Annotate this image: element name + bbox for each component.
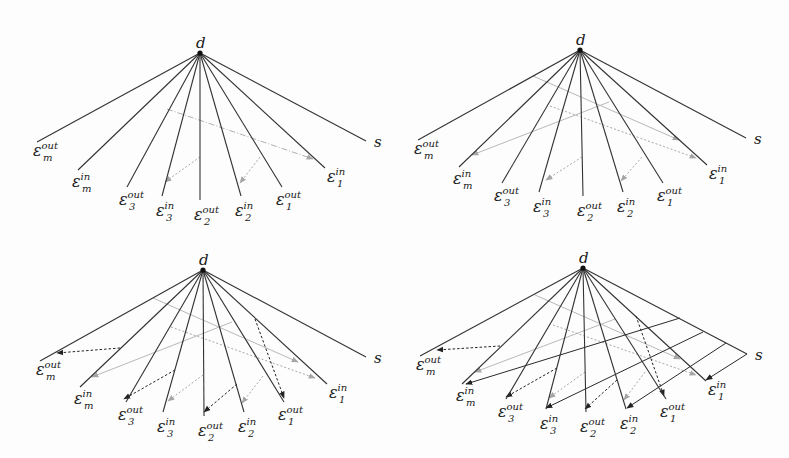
leaf-subscript: m [43, 152, 52, 163]
arc-black-dashed [437, 346, 500, 350]
leaf-subscript: m [84, 400, 93, 411]
leaf-subscript: m [424, 150, 433, 161]
arc-grey-dotted [550, 106, 696, 158]
leaf-subscript: m [463, 180, 472, 191]
center-label: d [199, 251, 209, 269]
star-edge [546, 268, 583, 409]
center-label: d [579, 249, 589, 267]
star-edge [163, 270, 203, 412]
star-edge [502, 50, 580, 183]
leaf-subscript: 2 [629, 425, 636, 436]
star-edge [203, 270, 284, 402]
arc-grey-dotted [165, 157, 200, 182]
star-edge [580, 50, 583, 196]
leaf-subscript: 1 [288, 416, 294, 427]
leaf-subscript: 2 [626, 208, 633, 219]
figure: dεoutmεinmεout3εin3εout2εin2εout1εin1sdε… [0, 0, 789, 458]
star-edge [459, 50, 580, 167]
arc-grey-dotted [242, 376, 263, 403]
panel-top-left: dεoutmεinmεout3εin3εout2εin2εout1εin1s [33, 34, 382, 227]
arc-set [57, 298, 315, 412]
leaf-subscript: 2 [586, 212, 593, 223]
star-edge [583, 268, 626, 409]
leaf-subscript: 2 [589, 428, 596, 439]
leaf-subscript: 2 [244, 212, 251, 223]
leaf-subscript: 1 [719, 175, 725, 186]
arc-grey-dashdot [167, 109, 313, 159]
leaf-subscript: 2 [203, 216, 210, 227]
leaf-subscript: 3 [128, 416, 134, 427]
arc-grey-dotted [240, 157, 260, 183]
star-edge [200, 53, 325, 168]
diagram-canvas: dεoutmεinmεout3εin3εout2εin2εout1εin1sdε… [0, 0, 789, 458]
leaf-subscript: 3 [543, 208, 549, 219]
leaf-label-s: s [374, 133, 382, 151]
arc-set [165, 109, 313, 183]
arc-set [437, 295, 747, 409]
leaf-label-s: s [755, 346, 763, 364]
arc-grey-dotted [546, 157, 582, 180]
leaf-subscript: 3 [166, 212, 172, 223]
leaf-subscript: 3 [508, 413, 514, 424]
leaf-subscript: m [46, 371, 55, 382]
arc-black-dashed [57, 348, 120, 353]
leaf-subscript: m [82, 183, 91, 194]
star-edge [580, 50, 623, 192]
leaf-subscript: 3 [129, 201, 135, 212]
arc-black-dashed [204, 384, 237, 412]
arc-grey-dotted [621, 157, 642, 181]
leaf-subscript: 3 [504, 197, 510, 208]
star-edge [506, 268, 583, 399]
arc-black-dashed [506, 368, 557, 397]
arc-black-dashed [585, 380, 617, 409]
star-edge [200, 53, 282, 187]
leaf-subscript: 1 [286, 201, 292, 212]
leaf-subscript: 1 [339, 394, 345, 405]
star-edge [418, 50, 580, 140]
leaf-subscript: 3 [550, 425, 556, 436]
panel-bottom-right: dεoutmεinmεout3εin3εout2εin2εout1εin1s [416, 249, 763, 439]
arc-grey-dotted [168, 375, 203, 401]
star-edge [203, 270, 327, 384]
leaf-subscript: 1 [718, 391, 724, 402]
arc-grey-solid [92, 322, 232, 377]
center-label: d [576, 31, 586, 49]
center-label: d [196, 34, 206, 52]
star-edge [539, 50, 580, 192]
leaf-subscript: 1 [670, 413, 676, 424]
panel-bottom-left: dεoutmεinmεout3εin3εout2εin2εout1εin1s [36, 251, 382, 443]
arc-grey-solid [472, 102, 609, 155]
arc-black-solid [706, 354, 747, 380]
star-edge [200, 53, 366, 141]
arc-grey-solid [475, 319, 615, 372]
star-edge [162, 53, 200, 196]
leaf-subscript: 2 [207, 432, 214, 443]
star-edge [126, 270, 203, 402]
leaf-subscript: 1 [337, 178, 343, 189]
leaf-subscript: 3 [167, 428, 173, 439]
star-edge [200, 53, 241, 196]
star-edge [580, 50, 663, 183]
leaf-label-s: s [374, 349, 382, 367]
leaf-label-s: s [754, 130, 762, 148]
arc-grey-dotted [624, 372, 645, 400]
leaf-subscript: 2 [247, 428, 254, 439]
star-edge [78, 53, 200, 170]
panel-top-right: dεoutmεinmεout3εin3εout2εin2εout1εin1s [414, 31, 762, 223]
star-edge [420, 268, 583, 356]
leaf-subscript: m [466, 397, 475, 408]
leaf-subscript: 1 [667, 197, 673, 208]
arc-black-solid [546, 332, 703, 408]
star-edge [583, 268, 747, 354]
star-edge [203, 270, 366, 357]
star-edge [203, 270, 204, 416]
leaf-subscript: m [426, 366, 435, 377]
